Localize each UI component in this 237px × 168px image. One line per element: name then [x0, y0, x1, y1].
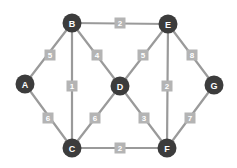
graph-node-a[interactable]: A — [16, 75, 35, 94]
node-label: G — [210, 81, 217, 91]
edge-weight-value: 4 — [95, 51, 100, 60]
graph-node-d[interactable]: D — [111, 77, 130, 96]
node-label: C — [69, 144, 76, 154]
edge-weight-value: 1 — [70, 82, 75, 91]
graph-node-e[interactable]: E — [159, 15, 178, 34]
graph-node-b[interactable]: B — [63, 14, 82, 33]
edge-weight-value: 8 — [190, 51, 195, 60]
graph-canvas: 562145826372 ABCDEFG — [0, 0, 237, 168]
edge-weight-b-c: 1 — [67, 81, 78, 92]
node-label: A — [22, 80, 29, 90]
edge-weight-value: 5 — [141, 51, 146, 60]
edge-weight-c-f: 2 — [115, 143, 126, 154]
edge-weight-value: 6 — [93, 114, 98, 123]
node-label: D — [117, 82, 124, 92]
edge-weight-d-e: 5 — [138, 50, 149, 61]
edge-weight-value: 6 — [46, 114, 51, 123]
graph-node-c[interactable]: C — [63, 139, 82, 158]
edge-weight-value: 5 — [48, 51, 53, 60]
graph-node-g[interactable]: G — [205, 76, 224, 95]
graph-node-f[interactable]: F — [158, 139, 177, 158]
edge-weight-value: 2 — [118, 19, 123, 28]
edge-weight-b-e: 2 — [115, 18, 126, 29]
edge-weight-value: 2 — [118, 144, 123, 153]
edge-weight-a-c: 6 — [43, 113, 54, 124]
node-label: B — [69, 19, 76, 29]
node-label: F — [164, 144, 170, 154]
edge-weight-value: 3 — [142, 114, 147, 123]
edge-weight-value: 2 — [165, 82, 170, 91]
edge-weight-a-b: 5 — [45, 50, 56, 61]
edge-weight-e-f: 2 — [162, 81, 173, 92]
edge-weight-d-f: 3 — [139, 113, 150, 124]
weighted-graph-diagram: 562145826372 ABCDEFG — [0, 0, 237, 168]
node-label: E — [165, 20, 171, 30]
edge-weight-c-d: 6 — [90, 113, 101, 124]
nodes-layer: ABCDEFG — [16, 14, 224, 158]
edge-weight-f-g: 7 — [185, 113, 196, 124]
edge-weight-value: 7 — [188, 114, 193, 123]
edge-weight-b-d: 4 — [92, 50, 103, 61]
edge-weight-e-g: 8 — [187, 50, 198, 61]
